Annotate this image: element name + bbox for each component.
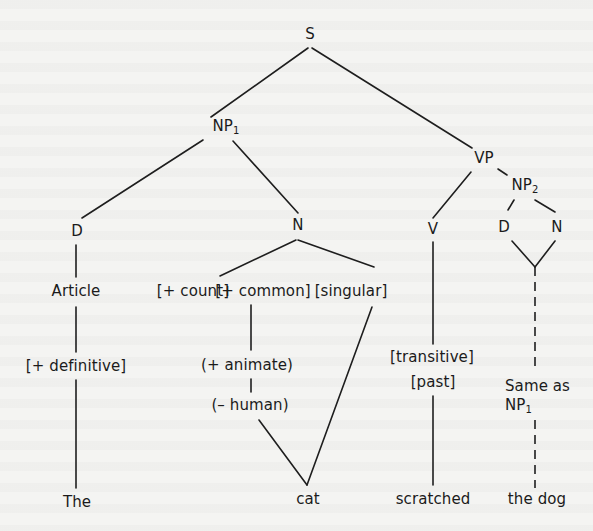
edge-np1-n xyxy=(233,141,298,213)
edge-np2d-join xyxy=(512,241,535,267)
edge-np2-n xyxy=(535,200,555,212)
node-s: S xyxy=(305,26,315,43)
edge-vp-np2 xyxy=(498,169,507,175)
edge-n-count xyxy=(220,240,296,276)
node-the-dog: the dog xyxy=(508,491,566,508)
node-v: V xyxy=(428,221,438,238)
node-scratched: scratched xyxy=(396,491,471,508)
node-same-as: Same as xyxy=(505,378,570,395)
node-article: Article xyxy=(52,283,101,300)
edge-vp-v xyxy=(433,172,471,218)
node-human: (– human) xyxy=(211,397,288,414)
node-np1: NP1 xyxy=(213,118,240,139)
node-np2-sub: 2 xyxy=(532,184,538,195)
node-cat: cat xyxy=(296,491,320,508)
node-animate: (+ animate) xyxy=(201,357,293,374)
tree-edges xyxy=(0,0,593,531)
node-np2-d: D xyxy=(498,219,510,236)
node-np1-sub: 1 xyxy=(233,125,239,136)
node-past: [past] xyxy=(411,374,456,391)
edge-np2n-join xyxy=(535,241,555,267)
edge-s-np1 xyxy=(211,48,308,117)
edge-np2-d xyxy=(508,200,514,210)
node-common: [+ common] xyxy=(215,283,310,300)
node-transitive: [transitive] xyxy=(390,349,474,366)
node-definitive: [+ definitive] xyxy=(26,358,126,375)
edge-s-vp xyxy=(312,48,472,148)
edge-human-cat xyxy=(259,420,307,485)
node-same-as-ref-sub: 1 xyxy=(525,404,531,415)
node-the: The xyxy=(63,494,91,511)
diagram-page: S NP1 VP D N Article [+ count] [+ common… xyxy=(0,0,593,531)
node-same-as-ref-base: NP xyxy=(505,396,525,414)
node-np2-base: NP xyxy=(512,176,532,194)
edge-np1-d xyxy=(82,140,203,218)
node-singular: [singular] xyxy=(315,283,388,300)
node-np2: NP2 xyxy=(512,177,539,198)
edge-singular-cat xyxy=(307,307,372,485)
edge-n-singular xyxy=(298,240,374,267)
node-np2-n: N xyxy=(551,219,562,236)
node-vp: VP xyxy=(474,150,494,167)
node-np1-base: NP xyxy=(213,117,233,135)
node-np1-d: D xyxy=(71,223,83,240)
node-np1-n: N xyxy=(292,217,303,234)
node-same-as-ref: NP1 xyxy=(505,397,532,418)
